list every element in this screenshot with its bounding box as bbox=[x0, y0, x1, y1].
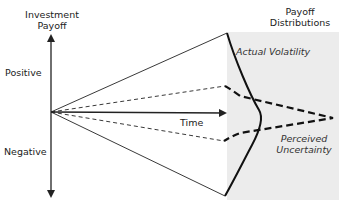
negative-label: Negative bbox=[4, 146, 47, 157]
upper-perceived-line bbox=[51, 86, 225, 112]
time-label: Time bbox=[180, 117, 203, 128]
perceived-label-line2: Uncertainty bbox=[272, 144, 336, 155]
distributions-title: Payoff Distributions bbox=[262, 6, 338, 28]
distributions-title-line1: Payoff bbox=[262, 6, 338, 17]
positive-label: Positive bbox=[5, 67, 42, 78]
distributions-title-line2: Distributions bbox=[262, 17, 338, 28]
actual-volatility-label: Actual Volatility bbox=[236, 46, 310, 57]
payoff-diagram: Investment Payoff Positive Negative Time… bbox=[0, 0, 339, 204]
perceived-uncertainty-label: Perceived Uncertainty bbox=[272, 133, 336, 155]
perceived-label-line1: Perceived bbox=[272, 133, 336, 144]
time-axis bbox=[51, 112, 225, 113]
y-axis-title-line1: Investment bbox=[14, 9, 90, 20]
y-axis-title: Investment Payoff bbox=[14, 9, 90, 31]
y-axis-title-line2: Payoff bbox=[14, 20, 90, 31]
upper-bound-line bbox=[51, 33, 227, 112]
